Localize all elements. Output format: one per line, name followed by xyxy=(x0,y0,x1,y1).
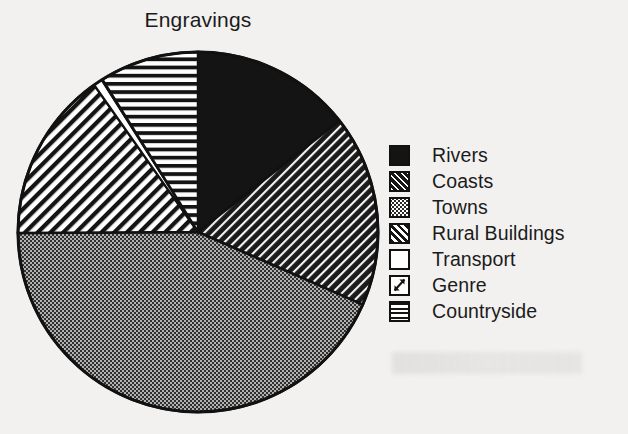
legend-label-rivers: Rivers xyxy=(432,144,488,167)
legend-label-genre: Genre xyxy=(432,274,487,297)
pie-chart-svg xyxy=(0,0,396,434)
legend: Rivers Coasts Towns Rural Buildings Tran… xyxy=(389,143,625,325)
legend-item-genre[interactable]: Genre xyxy=(389,273,625,298)
legend-swatch-coasts-icon xyxy=(389,171,410,192)
legend-label-towns: Towns xyxy=(432,196,488,219)
chart-page: Engravings xyxy=(0,0,628,434)
legend-label-rural-buildings: Rural Buildings xyxy=(432,222,565,245)
legend-swatch-transport-icon xyxy=(389,249,410,270)
legend-item-rivers[interactable]: Rivers xyxy=(389,143,625,168)
legend-swatch-genre-icon xyxy=(389,275,410,296)
scan-artifact xyxy=(392,352,582,374)
legend-label-coasts: Coasts xyxy=(432,170,493,193)
pie-slices xyxy=(18,52,378,412)
legend-item-coasts[interactable]: Coasts xyxy=(389,169,625,194)
legend-swatch-countryside-icon xyxy=(389,301,410,322)
legend-item-rural-buildings[interactable]: Rural Buildings xyxy=(389,221,625,246)
legend-item-transport[interactable]: Transport xyxy=(389,247,625,272)
legend-swatch-rural-buildings-icon xyxy=(389,223,410,244)
legend-label-countryside: Countryside xyxy=(432,300,537,323)
legend-item-countryside[interactable]: Countryside xyxy=(389,299,625,324)
legend-label-transport: Transport xyxy=(432,248,516,271)
legend-swatch-rivers-icon xyxy=(389,145,410,166)
legend-swatch-towns-icon xyxy=(389,197,410,218)
pie-chart xyxy=(0,0,396,434)
legend-item-towns[interactable]: Towns xyxy=(389,195,625,220)
